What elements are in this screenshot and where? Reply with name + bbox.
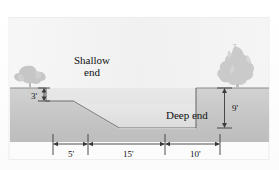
- figure-canvas: Shallow end Deep end 3' 9' 5' 15' 10': [0, 0, 279, 170]
- shallow-end-label-line2: end: [62, 67, 122, 79]
- width-shallow-label: 5': [68, 150, 74, 160]
- width-slope-label: 15': [123, 150, 134, 160]
- pool-cross-section-diagram: [0, 0, 279, 170]
- width-deep-label: 10': [190, 150, 201, 160]
- deep-end-label: Deep end: [166, 110, 208, 122]
- shallow-depth-label: 3': [31, 92, 37, 102]
- shallow-end-label: Shallow end: [62, 55, 122, 79]
- deep-depth-label: 9': [232, 104, 238, 114]
